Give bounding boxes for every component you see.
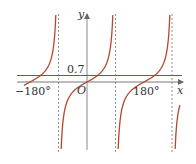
hline-value-label: 0.7 xyxy=(67,63,85,76)
x-axis-label: x xyxy=(177,84,184,97)
tan-branch xyxy=(175,105,180,149)
origin-label: O xyxy=(77,84,86,97)
x-tick-neg180: −180° xyxy=(15,85,51,98)
x-tick-180: 180° xyxy=(133,85,160,98)
tan-graph: y x O 0.7 −180° 180° xyxy=(0,0,196,164)
asymptotes xyxy=(59,14,173,152)
y-axis-label: y xyxy=(77,8,85,21)
